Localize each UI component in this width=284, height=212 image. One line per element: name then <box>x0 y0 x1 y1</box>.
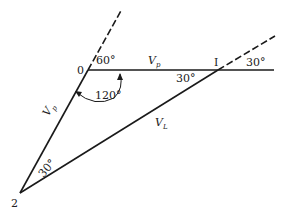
point-0-label: 0 <box>77 64 84 77</box>
point-I-label: I <box>214 56 218 69</box>
vl-label: VL <box>155 116 168 131</box>
vp-left-label: Vp <box>40 101 59 120</box>
angle-30-at-I-label: 30° <box>176 72 196 85</box>
angle-60-label: 60° <box>96 54 116 67</box>
angle-30-right-label: 30° <box>246 56 266 69</box>
point-2-label: 2 <box>11 197 18 210</box>
arrowhead-120-right-icon <box>117 73 123 80</box>
angle-30-at-2-label: 30° <box>36 157 58 180</box>
line-2-to-0-vp <box>20 70 88 193</box>
vp-top-label: Vp <box>148 54 161 69</box>
velocity-triangle-diagram: 0 60° Vp I 30° 30° 120° Vp VL 30° 2 <box>0 0 284 212</box>
angle-120-label: 120° <box>95 89 122 102</box>
